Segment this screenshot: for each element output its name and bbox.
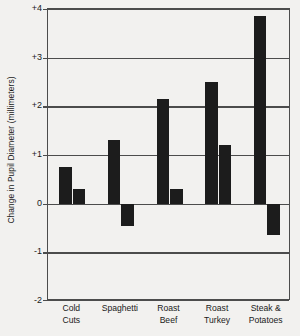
x-axis-category-label: Steak & Potatoes [241,303,290,326]
y-axis-title: Change in Pupil Diameter (millimeters) [0,0,22,300]
bar [254,16,267,203]
y-axis-tick-mark [43,300,48,301]
y-axis-title-text: Change in Pupil Diameter (millimeters) [6,76,16,223]
y-axis-tick-label: +3 [32,52,42,61]
y-axis-tick-label: -2 [34,296,42,305]
bar [108,140,121,203]
bars-layer [48,9,289,299]
y-axis-tick-labels: +4+3+2+10-1-2 [22,0,46,336]
y-axis-tick-label: +2 [32,101,42,110]
bar [121,204,134,226]
y-axis-tick-label: -1 [34,247,42,256]
y-axis-tick-label: +1 [32,150,42,159]
gridline [48,300,289,301]
y-axis-tick-label: 0 [37,198,42,207]
x-axis-category-label: Spaghetti [96,303,145,315]
bar [267,204,280,236]
bar [59,167,72,204]
bar [170,189,183,204]
bar [73,189,86,204]
bar [219,145,232,203]
plot-area [47,8,290,300]
bar [157,99,170,204]
x-axis-category-label: Cold Cuts [47,303,96,326]
bar [205,82,218,204]
y-axis-tick-label: +4 [32,4,42,13]
x-axis-category-label: Roast Beef [144,303,193,326]
x-axis-category-label: Roast Turkey [193,303,242,326]
x-axis-category-labels: Cold CutsSpaghettiRoast BeefRoast Turkey… [47,303,290,336]
